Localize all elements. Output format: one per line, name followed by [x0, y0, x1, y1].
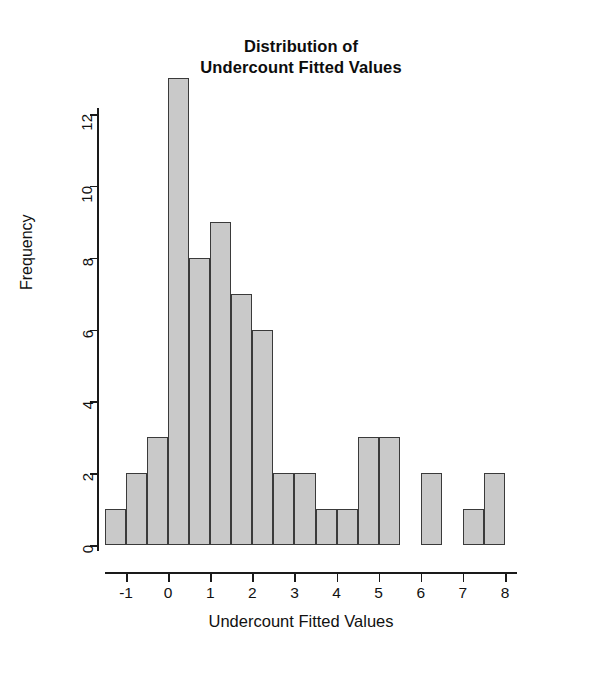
histogram-bar	[484, 473, 505, 545]
histogram-bar	[358, 437, 379, 545]
histogram-bar	[105, 509, 126, 545]
x-axis-tick	[379, 574, 381, 582]
x-axis-tick-label: 8	[501, 584, 510, 602]
x-axis-tick-label: 2	[248, 584, 257, 602]
histogram-bar	[273, 473, 294, 545]
y-axis-tick-label: 0	[79, 545, 96, 553]
x-axis-tick-label: 7	[459, 584, 468, 602]
histogram-bar	[252, 330, 273, 546]
histogram-bar	[379, 437, 400, 545]
x-axis-tick	[294, 574, 296, 582]
x-axis-tick-label: 5	[374, 584, 383, 602]
x-axis-tick	[421, 574, 423, 582]
x-axis-tick-label: 6	[416, 584, 425, 602]
y-axis-title: Frequency	[18, 214, 36, 290]
histogram-bar	[126, 473, 147, 545]
y-axis-tick-label: 8	[79, 258, 96, 266]
y-axis-tick-label: 12	[79, 114, 96, 131]
histogram-bar	[168, 78, 189, 545]
y-axis-tick-label: 4	[79, 401, 96, 409]
x-axis-tick-label: -1	[119, 584, 133, 602]
y-axis-tick-label: 6	[79, 330, 96, 338]
x-axis-tick	[252, 574, 254, 582]
histogram-bar	[316, 509, 337, 545]
histogram-bar	[294, 473, 315, 545]
bar-series	[105, 60, 505, 545]
x-axis-tick	[210, 574, 212, 582]
x-axis-title: Undercount Fitted Values	[0, 612, 602, 631]
histogram-bar	[463, 509, 484, 545]
histogram-figure: Distribution of Undercount Fitted Values…	[0, 0, 602, 674]
x-axis-tick	[126, 574, 128, 582]
y-axis-tick-label: 10	[79, 186, 96, 203]
histogram-bar	[147, 437, 168, 545]
y-axis-tick-label: 2	[79, 473, 96, 481]
x-axis-tick	[463, 574, 465, 582]
histogram-bar	[210, 222, 231, 545]
x-axis-tick	[337, 574, 339, 582]
plot-area	[105, 60, 505, 545]
x-axis-tick	[168, 574, 170, 582]
chart-title-line-1: Distribution of	[244, 37, 358, 55]
histogram-bar	[337, 509, 358, 545]
histogram-bar	[231, 294, 252, 545]
x-axis-tick-label: 3	[290, 584, 299, 602]
x-axis-tick-label: 0	[164, 584, 173, 602]
x-axis-tick	[505, 574, 507, 582]
histogram-bar	[189, 258, 210, 545]
y-axis-line: 024681012	[97, 108, 99, 551]
histogram-bar	[421, 473, 442, 545]
x-axis-line: -1012345678	[105, 572, 517, 574]
x-axis-tick-label: 1	[206, 584, 215, 602]
x-axis-tick-label: 4	[332, 584, 341, 602]
